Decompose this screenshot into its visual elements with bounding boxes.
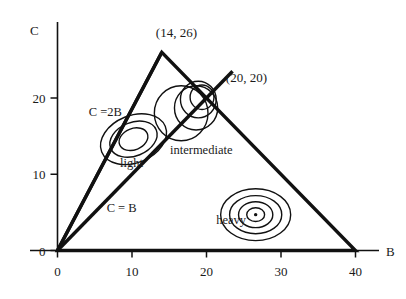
cluster-label-heavy: heavy <box>216 213 247 227</box>
y-tick-label-0: 0 <box>39 244 46 259</box>
y-axis-title: C <box>30 23 39 38</box>
cluster-center-dot-heavy <box>254 213 257 216</box>
cluster-label-intermediate: intermediate <box>170 143 233 157</box>
x-tick-label-0: 0 <box>54 264 61 279</box>
x-tick-label-30: 30 <box>275 264 288 279</box>
boundary-label-0: C =2B <box>89 105 122 119</box>
x-axis-title: B <box>386 244 395 259</box>
point-annotation-0: (14, 26) <box>156 25 197 40</box>
point-annotation-1: (20, 20) <box>226 70 267 85</box>
y-tick-label-10: 10 <box>33 167 46 182</box>
chart-container: 01020304001020 CBC =2BC = Blightintermed… <box>0 0 406 299</box>
cluster-label-light: light <box>120 156 143 170</box>
x-tick-label-10: 10 <box>126 264 139 279</box>
scatter-contour-chart: 01020304001020 CBC =2BC = Blightintermed… <box>0 0 406 299</box>
x-tick-label-20: 20 <box>200 264 213 279</box>
boundary-label-1: C = B <box>107 201 137 215</box>
x-tick-label-40: 40 <box>349 264 362 279</box>
y-tick-label-20: 20 <box>33 91 46 106</box>
